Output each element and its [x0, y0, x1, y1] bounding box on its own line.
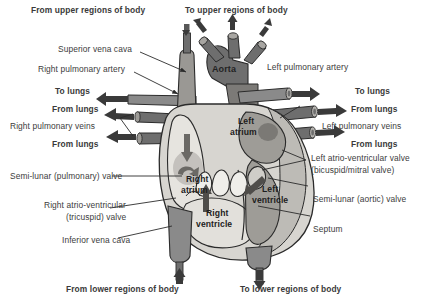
heart-diagram: From upper regions of body To upper regi… [0, 0, 431, 300]
label-semilunar-aortic-valve: Semi-lunar (aortic) valve [313, 194, 406, 205]
label-semilunar-pulmonary-valve: Semi-lunar (pulmonary) valve [10, 171, 122, 182]
label-right-av-valve-line2: (tricuspid) valve [66, 212, 126, 223]
label-right-av-valve-line1: Right atrio-ventricular [44, 200, 126, 211]
label-left-ventricle-line1: Left [262, 184, 278, 195]
label-from-lungs-right-lower: From lungs [52, 139, 99, 150]
label-to-lungs-left: To lungs [55, 86, 90, 97]
label-right-atrium-line2: atrium [181, 185, 208, 196]
label-aorta: Aorta [212, 64, 236, 75]
label-from-lungs-left-upper: From lungs [351, 104, 398, 115]
label-right-atrium-line1: Right [186, 174, 208, 185]
label-left-pulmonary-veins: Left pulmonary veins [322, 121, 401, 132]
label-inferior-vena-cava: Inferior vena cava [62, 235, 130, 246]
label-left-av-valve-line2: (bicuspid/mitral valve) [311, 165, 394, 176]
label-from-lower-regions: From lower regions of body [66, 284, 179, 295]
label-left-atrium-line2: atrium [230, 127, 257, 138]
label-to-upper-regions: To upper regions of body [185, 5, 288, 16]
label-right-pulmonary-artery: Right pulmonary artery [38, 64, 125, 75]
label-left-pulmonary-artery: Left pulmonary artery [267, 62, 348, 73]
label-left-ventricle-line2: ventricle [252, 195, 288, 206]
label-from-upper-regions: From upper regions of body [31, 5, 145, 16]
label-left-atrium-line1: Left [238, 116, 254, 127]
label-right-pulmonary-veins: Right pulmonary veins [10, 121, 95, 132]
label-from-lungs-left-lower: From lungs [351, 139, 398, 150]
label-right-ventricle-line1: Right [206, 208, 228, 219]
label-left-av-valve-line1: Left atrio-ventricular valve [311, 153, 410, 164]
label-superior-vena-cava: Superior vena cava [58, 44, 132, 55]
label-from-lungs-right-upper: From lungs [52, 104, 99, 115]
label-to-lungs-right: To lungs [355, 86, 390, 97]
label-to-lower-regions: To lower regions of body [240, 284, 341, 295]
label-right-ventricle-line2: ventricle [196, 219, 232, 230]
label-septum: Septum [313, 224, 342, 235]
